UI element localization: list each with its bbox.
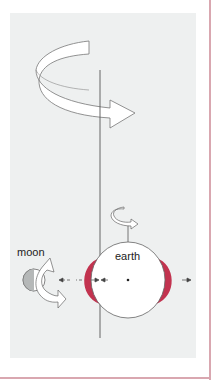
earth-label: earth (115, 250, 140, 262)
earth-spin-arrow-icon (111, 207, 138, 242)
tidal-diagram (0, 0, 212, 388)
moon-orbit-arrow-icon (36, 258, 66, 308)
earth-center-dot (127, 279, 130, 282)
large-rotation-arrow-icon (36, 41, 135, 128)
moon-label: moon (17, 246, 45, 258)
